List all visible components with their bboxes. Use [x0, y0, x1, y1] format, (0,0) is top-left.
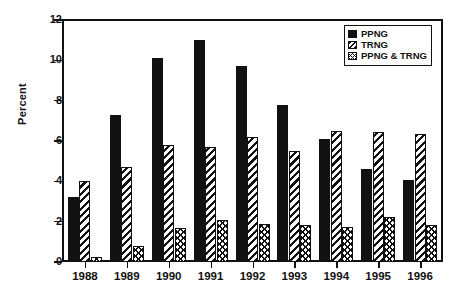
bar-ppng-trng-1996	[426, 225, 437, 262]
x-axis-tick-label: 1996	[400, 270, 440, 282]
legend-label: PPNG	[361, 29, 388, 39]
bar-trng-1995	[373, 132, 384, 262]
bar-ppng-trng-1988	[91, 257, 102, 262]
bar-ppng-1996	[403, 180, 414, 262]
legend-item: PPNG	[348, 29, 427, 39]
x-axis-tick-label: 1995	[358, 270, 398, 282]
bar-ppng-1991	[194, 40, 205, 262]
legend-swatch-hatch-icon	[348, 41, 357, 49]
bar-ppng-trng-1990	[175, 228, 186, 262]
bar-trng-1994	[331, 131, 342, 262]
x-axis-tick	[420, 262, 422, 268]
bar-ppng-trng-1992	[259, 224, 270, 262]
x-axis-tick	[253, 262, 255, 268]
bar-trng-1993	[289, 151, 300, 262]
x-axis-tick-label: 1990	[149, 270, 189, 282]
x-axis-tick	[127, 262, 129, 268]
bar-trng-1991	[205, 147, 216, 262]
y-axis-tick-label: 2	[16, 215, 62, 227]
y-axis-tick-label: 6	[16, 134, 62, 146]
x-axis-tick	[336, 262, 338, 268]
bar-ppng-1992	[236, 66, 247, 262]
legend-label: TRNG	[361, 40, 388, 50]
bar-ppng-trng-1993	[300, 225, 311, 262]
x-axis-tick	[294, 262, 296, 268]
legend-label: PPNG & TRNG	[361, 51, 427, 61]
bar-trng-1992	[247, 137, 258, 262]
y-axis-tick-label: 8	[16, 94, 62, 106]
legend-swatch-cross-icon	[348, 52, 357, 60]
bar-ppng-trng-1994	[342, 227, 353, 262]
x-axis-tick	[211, 262, 213, 268]
x-axis-tick-label: 1992	[233, 270, 273, 282]
bar-trng-1989	[121, 167, 132, 262]
x-axis-tick-label: 1989	[107, 270, 147, 282]
bar-ppng-trng-1991	[217, 220, 228, 262]
bar-trng-1990	[163, 145, 174, 262]
bar-ppng-1994	[319, 139, 330, 262]
y-axis-tick-label: 10	[16, 53, 62, 65]
bar-ppng-trng-1989	[133, 246, 144, 262]
legend-swatch-solid-icon	[348, 30, 357, 38]
legend-item: PPNG & TRNG	[348, 51, 427, 61]
x-axis-tick-label: 1994	[316, 270, 356, 282]
bar-ppng-1989	[110, 115, 121, 262]
x-axis-tick-label: 1993	[274, 270, 314, 282]
x-axis-tick-label: 1988	[65, 270, 105, 282]
bar-trng-1988	[79, 181, 90, 262]
x-axis-tick	[85, 262, 87, 268]
y-axis-tick-label: 12	[16, 13, 62, 25]
x-axis-tick	[169, 262, 171, 268]
y-axis-tick-label: 0	[16, 255, 62, 267]
bar-ppng-1988	[68, 197, 79, 262]
bar-chart: Percent 024681012 1988198919901991199219…	[0, 0, 459, 296]
chart-legend: PPNGTRNGPPNG & TRNG	[344, 25, 432, 66]
bar-trng-1996	[415, 134, 426, 262]
legend-item: TRNG	[348, 40, 427, 50]
bar-ppng-1993	[277, 105, 288, 262]
bar-ppng-1995	[361, 169, 372, 262]
bar-ppng-1990	[152, 58, 163, 262]
bar-ppng-trng-1995	[384, 217, 395, 262]
y-axis-tick-label: 4	[16, 174, 62, 186]
x-axis-tick	[378, 262, 380, 268]
x-axis-tick-label: 1991	[191, 270, 231, 282]
